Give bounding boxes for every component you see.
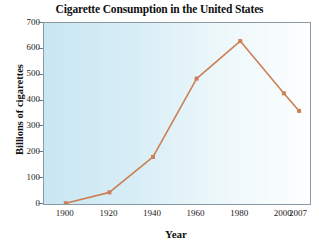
data-point-markers	[64, 39, 301, 204]
data-point-marker	[195, 77, 199, 81]
line-series-svg	[44, 23, 310, 204]
data-line	[66, 41, 299, 203]
x-tick-label: 1940	[132, 209, 172, 218]
x-tick-label: 1920	[88, 209, 128, 218]
y-tick-label: 400	[10, 95, 40, 104]
x-tick-label: 2007	[278, 209, 318, 218]
data-point-marker	[64, 201, 68, 204]
data-point-marker	[107, 190, 111, 194]
data-point-marker	[297, 109, 301, 113]
x-tick-label: 1980	[219, 209, 259, 218]
data-point-marker	[238, 39, 242, 43]
x-tick-label: 1960	[176, 209, 216, 218]
y-axis-tick-labels: 0100200300400500600700	[7, 0, 40, 247]
y-tick-label: 0	[10, 199, 40, 208]
chart-figure: Cigarette Consumption in the United Stat…	[0, 0, 319, 247]
data-point-marker	[151, 155, 155, 159]
y-tick-label: 200	[10, 147, 40, 156]
y-tick-label: 500	[10, 69, 40, 78]
y-tick-label: 100	[10, 173, 40, 182]
y-tick-label: 600	[10, 43, 40, 52]
y-tick-label: 300	[10, 121, 40, 130]
data-point-marker	[282, 91, 286, 95]
x-tick-label: 1900	[45, 209, 85, 218]
y-tick-label: 700	[10, 18, 40, 27]
plot-area	[43, 22, 311, 205]
